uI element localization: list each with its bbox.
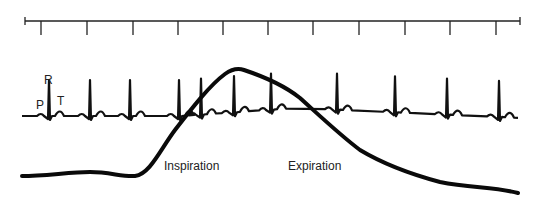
label-t-wave: T [57, 95, 64, 107]
time-axis [25, 17, 520, 35]
label-expiration: Expiration [288, 160, 341, 172]
diagram-canvas [0, 0, 541, 201]
label-r-wave: R [44, 74, 53, 86]
label-p-wave: P [36, 99, 44, 111]
label-inspiration: Inspiration [164, 160, 219, 172]
